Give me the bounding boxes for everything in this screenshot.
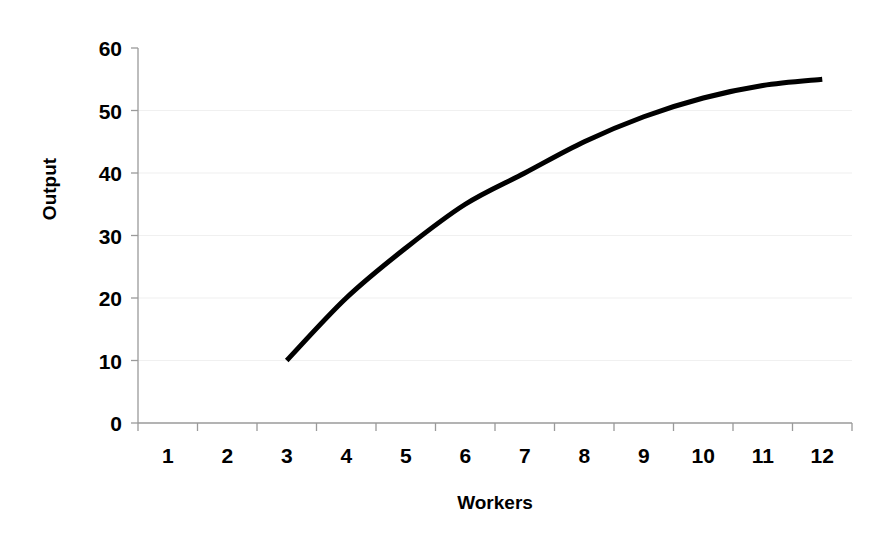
y-axis-tick-label: 30 xyxy=(0,225,122,246)
y-axis-title: Output xyxy=(39,157,61,219)
chart-figure: 0102030405060 123456789101112 Output Wor… xyxy=(0,0,881,540)
x-axis-tick-label: 7 xyxy=(519,445,531,466)
x-axis-tick-label: 12 xyxy=(811,445,834,466)
series-line-0 xyxy=(287,79,823,360)
series-paths-group xyxy=(287,79,823,360)
x-axis-tick-label: 6 xyxy=(459,445,471,466)
x-axis-tick-label: 1 xyxy=(162,445,174,466)
x-axis-tick-label: 2 xyxy=(221,445,233,466)
x-axis-tick-label: 8 xyxy=(578,445,590,466)
y-axis-tick-label: 0 xyxy=(0,413,122,434)
y-axis-tick-label: 20 xyxy=(0,288,122,309)
y-axis-tick-label: 60 xyxy=(0,38,122,59)
y-axis-tick-label: 50 xyxy=(0,100,122,121)
y-axis-tick-label: 40 xyxy=(0,163,122,184)
y-axis-tick-label: 10 xyxy=(0,350,122,371)
x-axis-tick-label: 4 xyxy=(340,445,352,466)
x-axis-tick-label: 11 xyxy=(752,445,774,466)
x-axis-title: Workers xyxy=(457,492,533,514)
chart-plot-area xyxy=(0,0,881,540)
x-axis-tick-label: 9 xyxy=(638,445,650,466)
gridlines-group xyxy=(138,111,852,361)
tick-marks-group xyxy=(131,48,852,431)
x-axis-tick-label: 5 xyxy=(400,445,412,466)
x-axis-tick-label: 10 xyxy=(692,445,715,466)
x-axis-tick-label: 3 xyxy=(281,445,293,466)
